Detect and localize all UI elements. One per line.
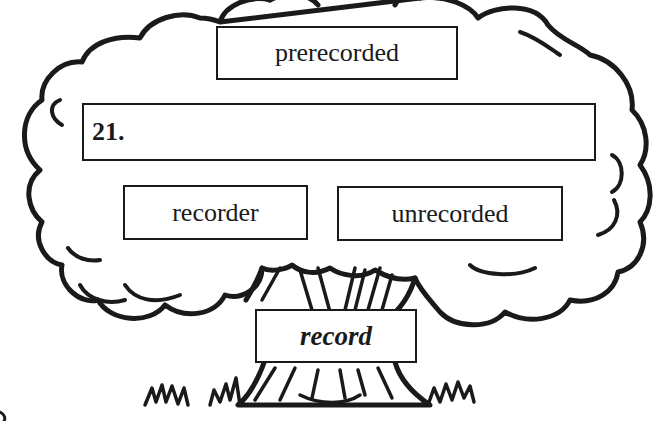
question-number: 21. [92, 119, 125, 145]
canopy-arc [612, 155, 622, 192]
grass-right [428, 382, 474, 405]
canopy-arc [52, 100, 62, 125]
branch-word-bottom-right-text: unrecorded [392, 201, 509, 227]
branch-word-top-text: prerecorded [275, 40, 399, 66]
branch-word-bottom-left: recorder [123, 185, 308, 240]
grass-left-2 [210, 378, 240, 405]
root-word: record [255, 309, 417, 363]
branch-word-top: prerecorded [216, 26, 458, 80]
canopy-arc [470, 265, 535, 274]
branch-word-bottom-right: unrecorded [337, 186, 563, 241]
canopy-arc [598, 200, 617, 235]
branch-word-bottom-left-text: recorder [172, 200, 259, 226]
root-word-text: record [300, 323, 372, 350]
canopy-arc [68, 248, 100, 261]
grass-left-1 [145, 385, 188, 405]
canopy-arc [520, 32, 560, 55]
answer-slot-21[interactable]: 21. [82, 103, 596, 161]
canopy-arc [125, 285, 180, 300]
